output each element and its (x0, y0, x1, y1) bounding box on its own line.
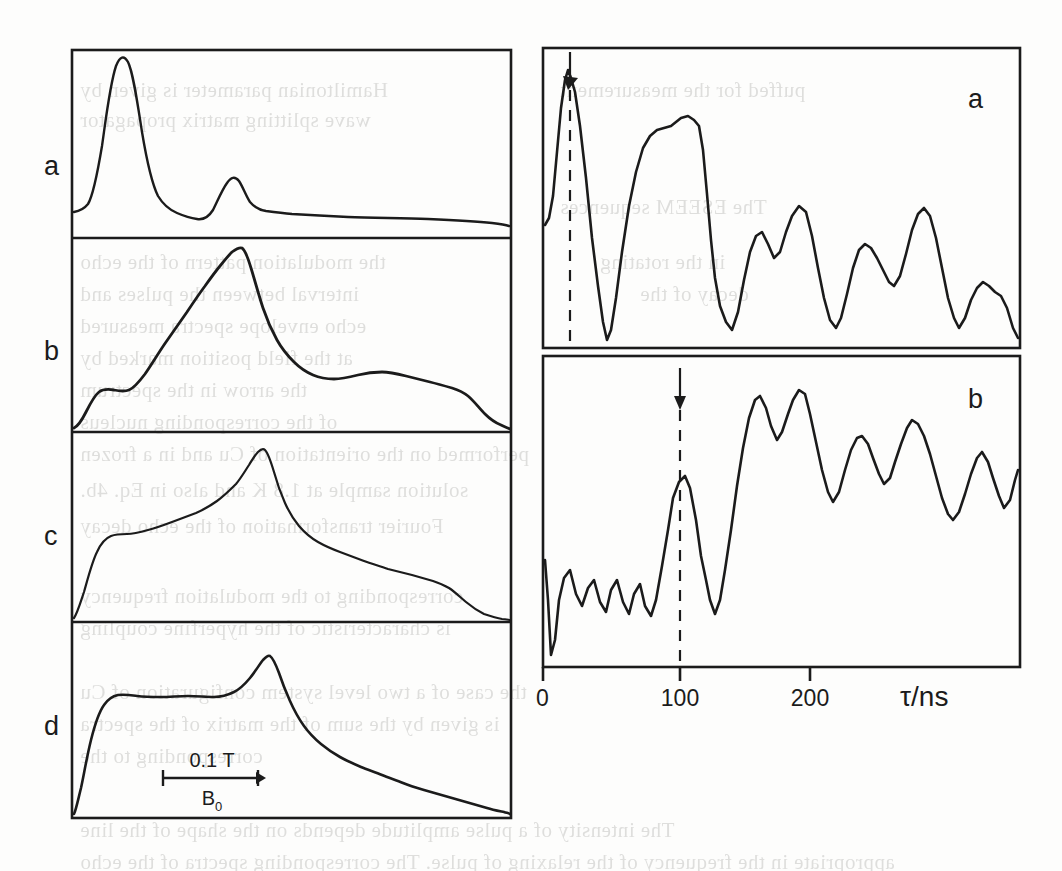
scalebar-axis-symbol: B (202, 787, 215, 809)
trace-right-b (545, 390, 1018, 655)
right-b-arrow-head-icon (674, 396, 686, 410)
xaxis-title: τ/ns (900, 681, 948, 712)
left-panel-label-d: d (44, 711, 59, 741)
trace-left-d (74, 656, 510, 814)
scalebar-value-label: 0.1 T (189, 749, 234, 771)
figure-svg: a b c d 0.1 T B0 (0, 0, 1062, 871)
trace-left-a (74, 57, 509, 226)
scalebar-axis-label: B0 (202, 787, 223, 814)
xaxis-tick-label-200: 200 (791, 685, 829, 711)
left-panel-label-a: a (44, 151, 60, 181)
right-b-marker (674, 368, 686, 665)
trace-left-b (74, 248, 510, 429)
right-panel-group: a b 0 100 200 τ/ns (536, 48, 1020, 712)
trace-left-c (74, 449, 510, 620)
scalebar-axis-subscript: 0 (215, 799, 222, 814)
left-panel-group: a b c d 0.1 T B0 (44, 50, 511, 818)
scalebar: 0.1 T B0 (163, 749, 266, 814)
xaxis-tick-label-100: 100 (661, 685, 699, 711)
right-panel-label-a: a (968, 84, 984, 114)
trace-right-a (545, 70, 1018, 340)
left-panel-label-c: c (44, 521, 58, 551)
figure-page: Hamiltonian parameter is given by puffed… (0, 0, 1062, 871)
left-panel-label-b: b (44, 336, 59, 366)
scalebar-arrowhead-icon (256, 772, 266, 784)
right-xaxis: 0 100 200 τ/ns (536, 667, 948, 712)
xaxis-tick-label-0: 0 (536, 685, 549, 711)
right-panel-label-b: b (968, 384, 983, 414)
